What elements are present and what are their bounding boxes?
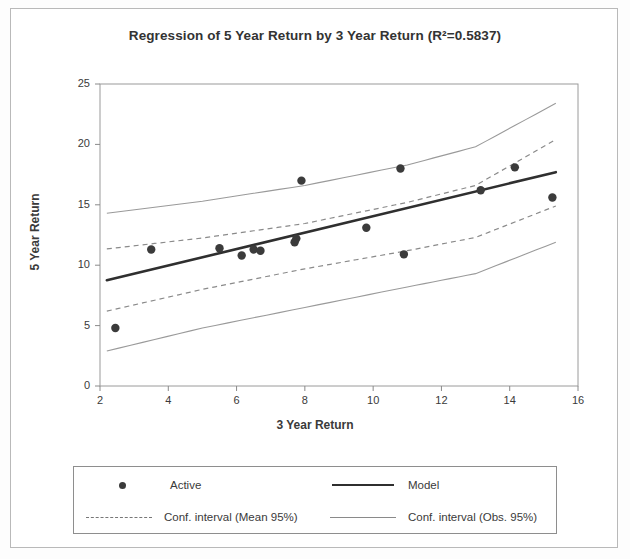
legend-row-2: Conf. interval (Mean 95%) Conf. interval… — [74, 500, 558, 534]
x-tick-label: 10 — [358, 394, 388, 406]
data-point — [396, 164, 404, 172]
y-tick-label: 15 — [64, 198, 90, 210]
chart-legend: Active Model Conf. interval (Mean 95%) C… — [73, 466, 557, 534]
y-tick-label: 5 — [64, 319, 90, 331]
x-tick-label: 6 — [222, 394, 252, 406]
y-tick-label: 25 — [64, 77, 90, 89]
legend-label-conf-obs: Conf. interval (Obs. 95%) — [408, 511, 537, 523]
data-point — [511, 163, 519, 171]
legend-item-conf-mean[interactable]: Conf. interval (Mean 95%) — [74, 500, 326, 534]
y-tick-label: 20 — [64, 137, 90, 149]
data-point — [362, 224, 370, 232]
line-solid-thick-icon — [326, 478, 400, 492]
data-point — [548, 193, 556, 201]
data-point — [147, 245, 155, 253]
data-point — [256, 247, 264, 255]
legend-item-conf-obs[interactable]: Conf. interval (Obs. 95%) — [326, 500, 556, 534]
x-tick-label: 4 — [153, 394, 183, 406]
data-point — [237, 251, 245, 259]
y-tick-label: 0 — [64, 379, 90, 391]
x-tick-label: 14 — [495, 394, 525, 406]
x-tick-label: 8 — [290, 394, 320, 406]
data-point — [215, 244, 223, 252]
legend-label-model: Model — [408, 479, 439, 491]
data-point — [292, 234, 300, 242]
data-point — [400, 250, 408, 258]
x-axis-title: 3 Year Return — [0, 418, 630, 432]
data-point — [297, 176, 305, 184]
data-point — [111, 324, 119, 332]
data-point — [476, 186, 484, 194]
marker-dot-icon — [88, 478, 162, 492]
legend-item-model[interactable]: Model — [326, 468, 556, 502]
legend-label-active: Active — [170, 479, 201, 491]
legend-label-conf-mean: Conf. interval (Mean 95%) — [164, 511, 298, 523]
y-tick-label: 10 — [64, 258, 90, 270]
line-dashed-icon — [82, 510, 156, 524]
legend-item-active[interactable]: Active — [74, 468, 326, 502]
line-solid-thin-icon — [326, 510, 400, 524]
y-axis-title: 5 Year Return — [28, 142, 42, 322]
regression-chart-figure: Regression of 5 Year Return by 3 Year Re… — [0, 0, 630, 559]
x-tick-label: 2 — [85, 394, 115, 406]
x-tick-label: 12 — [426, 394, 456, 406]
plot-frame — [100, 84, 578, 386]
legend-row-1: Active Model — [74, 468, 558, 502]
x-tick-label: 16 — [563, 394, 593, 406]
